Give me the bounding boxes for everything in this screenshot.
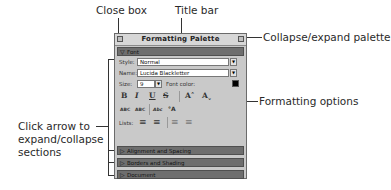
leader-arrows-vertical <box>108 59 109 176</box>
small-caps-button[interactable]: ABC <box>120 107 130 113</box>
increase-indent-icon[interactable]: ≡ <box>185 117 193 128</box>
divider <box>167 117 168 128</box>
subscript-button[interactable]: Aˬ <box>202 91 212 101</box>
divider <box>149 104 150 115</box>
collapse-box[interactable] <box>238 36 244 42</box>
callout-title-bar: Title bar <box>175 4 218 17</box>
italic-button[interactable]: I <box>135 91 139 101</box>
section-label: Borders and Shading <box>127 160 185 166</box>
lists-label: Lists: <box>119 120 133 127</box>
size-label: Size: <box>119 81 132 88</box>
section-label: Document <box>127 172 156 178</box>
character-spacing-button[interactable]: °A <box>168 106 176 112</box>
section-document[interactable]: ▷ Document <box>117 170 244 179</box>
numbered-list-icon[interactable]: ≡ <box>153 117 161 128</box>
font-name-select[interactable]: Lucida Blackletter <box>137 69 229 77</box>
callout-click-arrow-1: Click arrow to <box>18 120 90 133</box>
disclosure-triangle-closed-icon[interactable]: ▷ <box>120 171 125 179</box>
bold-button[interactable]: B <box>121 91 127 101</box>
strikethrough-button[interactable]: S <box>163 91 168 101</box>
section-alignment-spacing[interactable]: ▷ Alignment and Spacing <box>117 146 244 155</box>
style-label: Style: <box>119 59 135 66</box>
title-bar[interactable]: Formatting Palette <box>115 34 246 46</box>
superscript-button[interactable]: A˄ <box>185 91 195 101</box>
formatting-palette: Formatting Palette ▽ Font Style: Normal … <box>114 33 247 179</box>
style-dropdown-icon[interactable]: ▼ <box>230 58 237 66</box>
bulleted-list-icon[interactable]: ≡ <box>139 117 147 128</box>
divider <box>179 91 180 102</box>
all-caps-button[interactable]: ABC <box>135 107 145 113</box>
section-borders-shading[interactable]: ▷ Borders and Shading <box>117 158 244 167</box>
size-field[interactable]: 9 <box>137 80 155 88</box>
name-label: Name: <box>119 70 137 77</box>
decrease-indent-icon[interactable]: ≡ <box>171 117 179 128</box>
callout-click-arrow-2: expand/collapse <box>18 133 104 146</box>
style-select[interactable]: Normal <box>137 58 229 66</box>
disclosure-triangle-open-icon[interactable]: ▽ <box>120 48 125 56</box>
section-font-label: Font <box>127 49 139 55</box>
leader-collapse <box>246 37 262 38</box>
callout-collapse-expand: Collapse/expand palette <box>263 31 391 44</box>
disclosure-triangle-closed-icon[interactable]: ▷ <box>120 147 125 155</box>
callout-formatting-options: Formatting options <box>259 95 358 108</box>
font-color-swatch[interactable] <box>232 80 239 87</box>
disclosure-triangle-closed-icon[interactable]: ▷ <box>120 159 125 167</box>
callout-close-box: Close box <box>96 4 147 17</box>
callout-click-arrow-3: sections <box>18 146 61 159</box>
shadow-button[interactable]: Abc <box>153 107 162 113</box>
section-label: Alignment and Spacing <box>127 148 191 154</box>
size-dropdown-icon[interactable]: ▼ <box>155 80 162 88</box>
section-font[interactable]: ▽ Font <box>117 47 244 56</box>
palette-title: Formatting Palette <box>115 34 246 45</box>
underline-button[interactable]: U <box>149 91 156 101</box>
leader-arrows-horizontal <box>96 126 108 127</box>
font-name-dropdown-icon[interactable]: ▼ <box>230 69 237 77</box>
font-color-label: Font color: <box>166 81 195 88</box>
